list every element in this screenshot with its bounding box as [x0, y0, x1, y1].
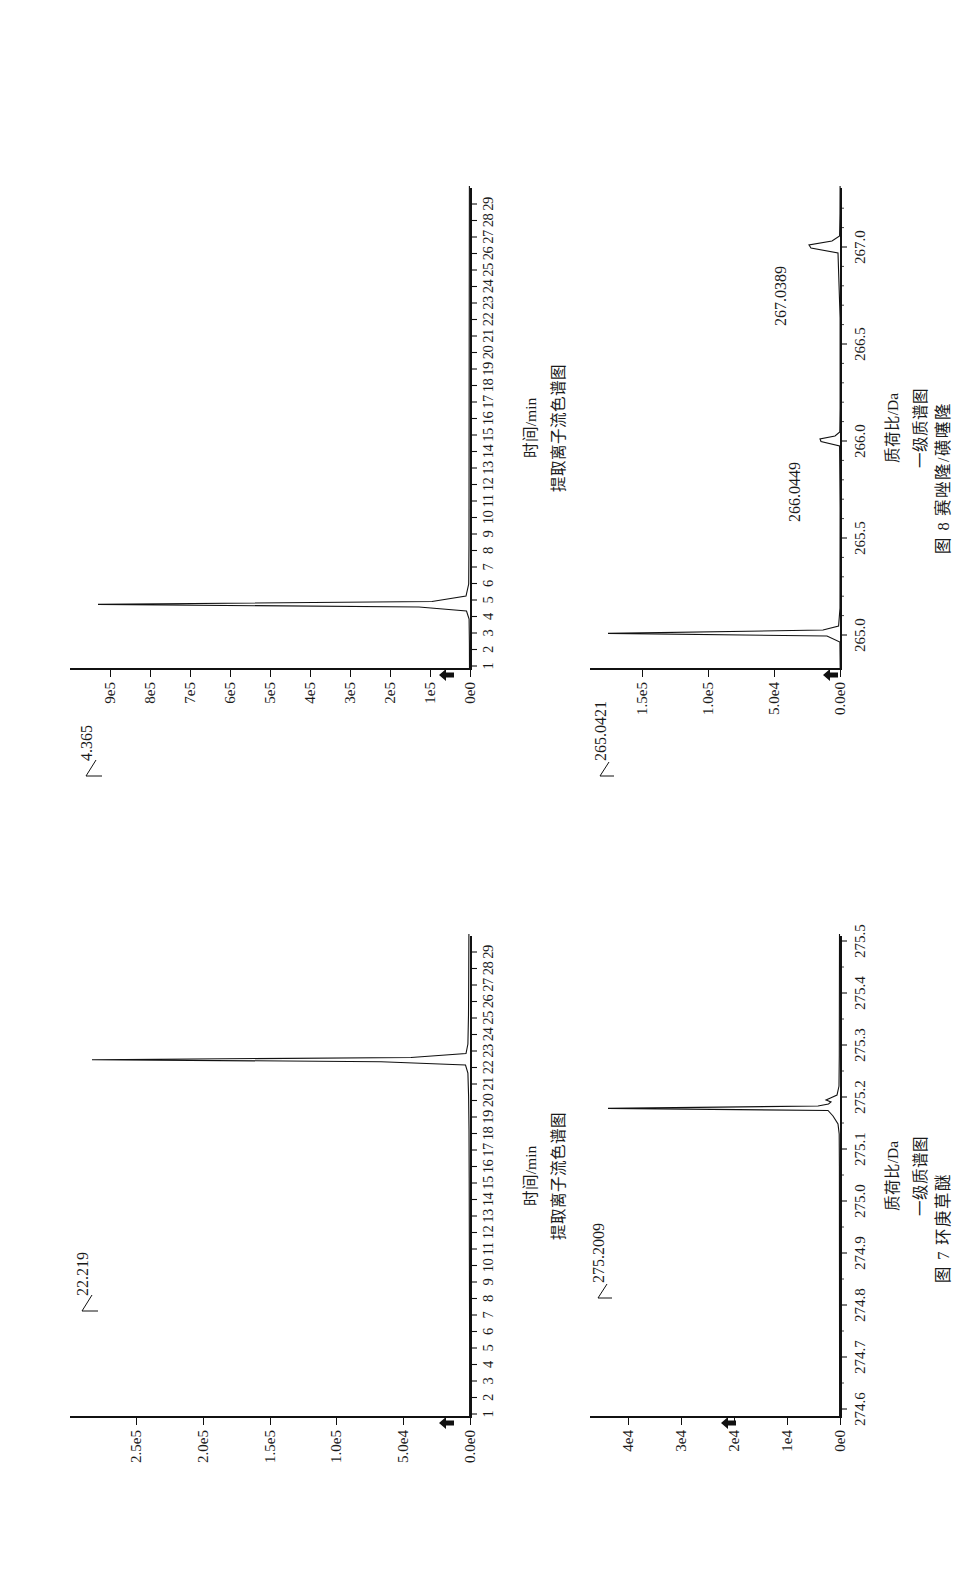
peak-label-4-365: 4.365 — [78, 725, 96, 761]
y-tick-label: 4e4 — [620, 1430, 637, 1452]
y-tick — [310, 670, 311, 677]
x-tick-label: 29 — [480, 197, 497, 211]
y-tick — [642, 670, 643, 677]
x-tick-group — [840, 186, 849, 670]
x-tick-label: 21 — [480, 329, 497, 343]
panel-fig8-eic: 0e0 1e5 2e5 3e5 4e5 5e5 6e5 7e5 8e5 9e5 — [70, 168, 540, 788]
x-tick-label: 5 — [480, 597, 497, 604]
y-tick-label: 3e5 — [342, 682, 359, 704]
x-tick-label: 265.5 — [852, 521, 869, 555]
x-tick-label: 13 — [480, 1209, 497, 1223]
x-tick-label: 22 — [480, 313, 497, 327]
rotated-page-wrapper: 0.0e0 5.0e4 1.0e5 1.5e5 2.0e5 2.5e5 — [0, 0, 971, 1588]
x-tick-label: 9 — [480, 1279, 497, 1286]
panel-subtitle: 一级质谱图 — [908, 1136, 930, 1216]
x-tick-label: 19 — [480, 362, 497, 376]
x-tick-label: 12 — [480, 478, 497, 492]
x-tick-label: 8 — [480, 547, 497, 554]
x-tick-label: 12 — [480, 1226, 497, 1240]
x-tick-label: 8 — [480, 1295, 497, 1302]
x-tick-label: 274.8 — [852, 1288, 869, 1322]
x-tick-label: 275.1 — [852, 1132, 869, 1166]
x-axis-title: 时间/min — [518, 398, 540, 458]
y-tick-label: 3e4 — [673, 1430, 690, 1452]
x-tick-label: 5 — [480, 1345, 497, 1352]
peak-label-22-219: 22.219 — [74, 1252, 92, 1296]
x-tick-label: 19 — [480, 1110, 497, 1124]
x-tick-label: 27 — [480, 230, 497, 244]
x-tick-label: 3 — [480, 630, 497, 637]
peak-label-266-0449: 266.0449 — [786, 462, 804, 522]
x-tick-label: 28 — [480, 214, 497, 228]
y-tick-label: 0e0 — [832, 1430, 849, 1452]
mass-spectrum-trace — [590, 934, 841, 1416]
y-tick-label: 1.5e5 — [262, 1430, 279, 1463]
panel-fig8-ms: 0.0e0 5.0e4 1.0e5 1.5e5 — [590, 168, 950, 788]
y-tick-label: 8e5 — [142, 682, 159, 704]
y-tick — [270, 1418, 271, 1425]
x-tick-label: 22 — [480, 1061, 497, 1075]
y-tick — [390, 670, 391, 677]
x-tick-label: 29 — [480, 945, 497, 959]
x-tick-label: 20 — [480, 346, 497, 360]
y-tick — [150, 670, 151, 677]
y-tick-label: 6e5 — [222, 682, 239, 704]
y-tick — [774, 670, 775, 677]
x-tick-label: 25 — [480, 1011, 497, 1025]
x-tick-label: 24 — [480, 280, 497, 294]
x-tick-label: 20 — [480, 1094, 497, 1108]
axis-arrow-marker — [720, 1414, 738, 1432]
figure-caption-8: 图 8 赛唑隆/磺噻隆 — [930, 402, 954, 553]
x-tick-label: 24 — [480, 1028, 497, 1042]
x-tick-group — [840, 934, 849, 1418]
y-tick-label: 1.0e5 — [700, 682, 717, 715]
x-tick-label: 17 — [480, 1143, 497, 1157]
x-tick-label: 275.0 — [852, 1184, 869, 1218]
x-tick-label: 267.0 — [852, 230, 869, 264]
axis-arrow-marker — [822, 666, 840, 684]
x-tick-label: 266.0 — [852, 424, 869, 458]
x-tick-label: 16 — [480, 1160, 497, 1174]
x-tick-label: 14 — [480, 445, 497, 459]
chromatogram-trace — [70, 186, 471, 668]
y-tick-label: 5e5 — [262, 682, 279, 704]
x-tick-label: 11 — [480, 494, 497, 507]
x-tick-label: 4 — [480, 613, 497, 620]
y-tick — [470, 670, 471, 677]
panel-fig7-ms: 0e0 1e4 2e4 3e4 4e4 — [590, 928, 950, 1528]
y-tick-label: 7e5 — [182, 682, 199, 704]
x-tick-label: 11 — [480, 1242, 497, 1255]
x-tick-label: 28 — [480, 962, 497, 976]
x-tick-label: 4 — [480, 1361, 497, 1368]
x-tick-label: 275.4 — [852, 976, 869, 1010]
x-tick-label: 23 — [480, 1044, 497, 1058]
y-tick — [787, 1418, 788, 1425]
x-tick-label: 26 — [480, 995, 497, 1009]
y-tick-label: 1.0e5 — [328, 1430, 345, 1463]
y-tick — [470, 1418, 471, 1425]
x-tick-label: 25 — [480, 263, 497, 277]
x-tick-label: 275.5 — [852, 924, 869, 958]
x-tick-label: 10 — [480, 511, 497, 525]
y-tick-label: 1.5e5 — [634, 682, 651, 715]
panel-fig7-eic: 0.0e0 5.0e4 1.0e5 1.5e5 2.0e5 2.5e5 — [70, 928, 540, 1528]
panel-subtitle: 提取离子流色谱图 — [546, 364, 568, 492]
x-tick-group — [470, 186, 479, 670]
x-tick-label: 16 — [480, 412, 497, 426]
x-axis-title: 时间/min — [518, 1146, 540, 1206]
mass-spectrum-trace — [590, 186, 841, 668]
x-tick-label: 18 — [480, 1127, 497, 1141]
y-tick — [681, 1418, 682, 1425]
x-tick-label: 23 — [480, 296, 497, 310]
x-tick-label: 18 — [480, 379, 497, 393]
x-tick-label: 6 — [480, 1328, 497, 1335]
x-tick-label: 265.0 — [852, 618, 869, 652]
y-axis-line — [590, 668, 840, 670]
x-tick-label: 21 — [480, 1077, 497, 1091]
y-tick — [136, 1418, 137, 1425]
x-tick-label: 15 — [480, 428, 497, 442]
x-tick-group — [470, 934, 479, 1418]
y-tick-label: 5.0e4 — [766, 682, 783, 715]
x-tick-label: 275.3 — [852, 1028, 869, 1062]
y-tick-label: 5.0e4 — [395, 1430, 412, 1463]
